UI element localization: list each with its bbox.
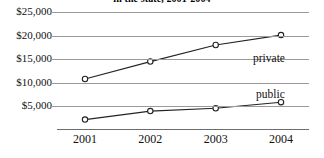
data-point-private [82,76,87,81]
x-axis-label: 2004 [256,133,306,146]
series-line-public [85,102,281,119]
x-axis-label: 2003 [191,133,241,146]
plot-area [57,12,309,130]
y-axis-tick [50,83,57,84]
data-layer [57,12,309,130]
y-axis-tick [50,36,57,37]
y-axis-label: $10,000 [0,77,52,88]
y-axis-tick [50,12,57,13]
x-axis-label: 2002 [125,133,175,146]
y-axis-label: $20,000 [0,30,52,41]
chart-screenshot: in the state, 2001-2004 $25,000 $20,000 … [0,0,324,158]
y-axis-tick [50,59,57,60]
y-axis-label: $5,000 [0,100,52,111]
data-point-public [148,108,153,113]
series-label-private: private [253,52,285,64]
gridline [57,83,309,84]
series-label-public: public [256,88,285,100]
data-point-public [278,100,283,105]
data-point-private [213,42,218,47]
series-line-private [85,35,281,79]
gridline [57,106,309,107]
data-point-public [82,117,87,122]
y-axis-label: $15,000 [0,53,52,64]
x-axis-label: 2001 [60,133,110,146]
gridline [57,36,309,37]
gridline [57,12,309,13]
y-axis-label: $25,000 [0,6,52,17]
chart-title: in the state, 2001-2004 [0,0,324,4]
y-axis-tick [50,106,57,107]
x-axis-line [57,129,309,130]
